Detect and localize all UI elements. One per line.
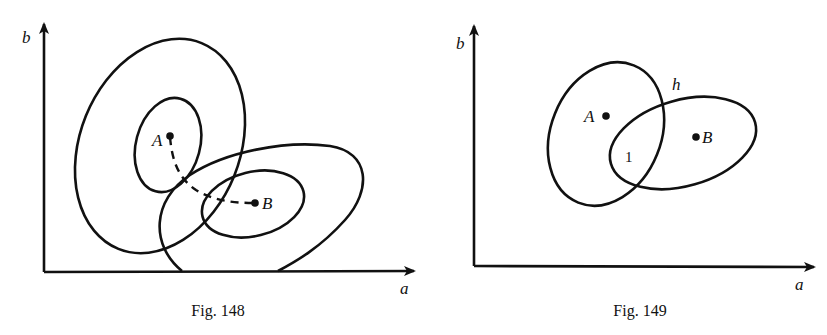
inner-contour-a	[125, 90, 212, 199]
point-b	[251, 199, 259, 207]
curve-label-h: h	[672, 75, 681, 94]
figure-148: b a A B Fig. 148	[22, 13, 414, 320]
point-a	[166, 132, 174, 140]
figure-caption: Fig. 148	[191, 302, 244, 320]
point-a-label: A	[583, 107, 595, 126]
point-a-label: A	[151, 131, 163, 150]
ellipse-b	[599, 81, 767, 205]
x-axis	[474, 266, 814, 267]
point-b-label: B	[702, 128, 713, 147]
y-axis-label: b	[456, 34, 465, 53]
point-b	[692, 133, 700, 141]
y-axis-label: b	[22, 28, 31, 47]
point-a	[602, 112, 610, 120]
figure-caption: Fig. 149	[613, 302, 666, 320]
x-axis-label: a	[795, 275, 804, 294]
x-axis-label: a	[400, 279, 409, 298]
point-b-label: B	[262, 194, 273, 213]
x-axis	[44, 271, 414, 272]
diagram-canvas: b a A B Fig. 148 b a A B h 1 Fig. 149	[0, 0, 827, 335]
region-label-1: 1	[625, 149, 633, 165]
figure-149: b a A B h 1 Fig. 149	[456, 26, 814, 320]
ellipse-a	[527, 45, 684, 223]
